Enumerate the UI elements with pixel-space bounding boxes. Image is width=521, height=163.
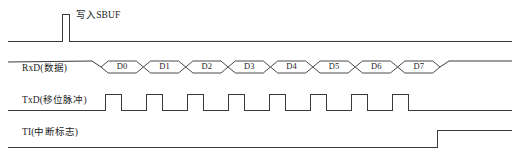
rxd-bit-label-d3: D3: [244, 61, 255, 71]
rxd-bit-label-d5: D5: [329, 61, 340, 71]
signal-trace-ti: [8, 130, 512, 147]
signal-label-ti: TI(中断标志): [22, 128, 78, 138]
rxd-bit-cell-group: [101, 61, 440, 73]
timing-waveform-canvas: D0D1D2D3D4D5D6D7: [0, 0, 521, 163]
rxd-bit-label-d4: D4: [286, 61, 297, 71]
timing-diagram: D0D1D2D3D4D5D6D7 写入SBUF RxD(数据) TxD(移位脉冲…: [0, 0, 521, 163]
signal-label-rxd: RxD(数据): [22, 64, 67, 74]
signal-label-txd: TxD(移位脉冲): [22, 96, 87, 106]
signal-label-write-sbuf: 写入SBUF: [76, 11, 120, 21]
signal-trace-rxd: D0D1D2D3D4D5D6D7: [8, 61, 512, 73]
rxd-bit-label-d1: D1: [159, 61, 170, 71]
rxd-bit-label-d6: D6: [371, 61, 382, 71]
rxd-bit-label-d2: D2: [202, 61, 213, 71]
rxd-bit-label-d7: D7: [413, 61, 424, 71]
rxd-bit-label-d0: D0: [117, 61, 128, 71]
